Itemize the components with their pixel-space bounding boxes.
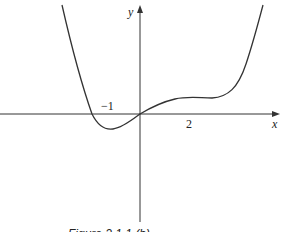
figure-caption: Figure 2.1.1 (b) bbox=[68, 227, 150, 232]
tick-label-neg1: −1 bbox=[101, 99, 114, 113]
plot-canvas: y x −1 2 Figure 2.1.1 (b) bbox=[0, 0, 281, 232]
function-curve bbox=[62, 5, 263, 129]
y-axis-arrow-icon bbox=[137, 5, 143, 13]
figure: y x −1 2 Figure 2.1.1 (b) bbox=[0, 0, 281, 232]
tick-label-2: 2 bbox=[186, 117, 192, 131]
y-axis-label: y bbox=[127, 5, 134, 19]
x-axis-label: x bbox=[271, 117, 278, 131]
